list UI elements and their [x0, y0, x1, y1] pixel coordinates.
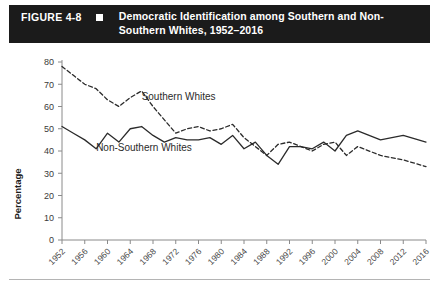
y-tick-label: 70	[44, 80, 54, 90]
x-tick-label: 2008	[365, 246, 386, 267]
x-tick-label: 1960	[92, 246, 113, 267]
series-label-southern-whites: Southern Whites	[142, 91, 216, 102]
x-tick-label: 1964	[115, 246, 136, 267]
y-axis-title: Percentage	[12, 168, 23, 219]
x-tick-label: 2000	[319, 246, 340, 267]
x-tick-label: 1980	[206, 246, 227, 267]
x-tick-label: 1988	[251, 246, 272, 267]
x-tick-label: 2016	[410, 246, 431, 267]
chart-plot-area: 01020304050607080 1952195619601964196819…	[0, 44, 439, 274]
x-tick-label: 1956	[69, 246, 90, 267]
x-tick-label: 1952	[46, 246, 67, 267]
square-bullet-icon	[96, 14, 103, 21]
x-axis: 1952195619601964196819721976198019841988…	[46, 240, 431, 267]
figure-header-banner: FIGURE 4-8 Democratic Identification amo…	[9, 5, 430, 43]
x-tick-label: 2012	[388, 246, 409, 267]
y-tick-label: 50	[44, 124, 54, 134]
x-tick-label: 1984	[228, 246, 249, 267]
y-axis: 01020304050607080	[44, 57, 62, 245]
x-tick-label: 1996	[297, 246, 318, 267]
x-tick-label: 1992	[274, 246, 295, 267]
x-tick-label: 1976	[183, 246, 204, 267]
x-tick-label: 2004	[342, 246, 363, 267]
x-tick-label: 1968	[137, 246, 158, 267]
y-tick-label: 30	[44, 169, 54, 179]
y-tick-label: 60	[44, 102, 54, 112]
figure-title-text: Democratic Identification among Southern…	[119, 10, 422, 37]
y-tick-label: 40	[44, 146, 54, 156]
figure-container: FIGURE 4-8 Democratic Identification amo…	[0, 0, 439, 291]
y-tick-label: 20	[44, 191, 54, 201]
y-tick-label: 0	[49, 235, 54, 245]
y-tick-label: 80	[44, 57, 54, 67]
figure-number-label: FIGURE 4-8	[21, 10, 82, 25]
series-label-non-southern-whites: Non-Southern Whites	[96, 142, 192, 153]
y-tick-label: 10	[44, 213, 54, 223]
line-chart: 01020304050607080 1952195619601964196819…	[0, 44, 439, 274]
x-tick-label: 1972	[160, 246, 181, 267]
chart-series-labels: Southern WhitesNon-Southern Whites	[96, 91, 215, 153]
bottom-divider	[9, 279, 430, 280]
